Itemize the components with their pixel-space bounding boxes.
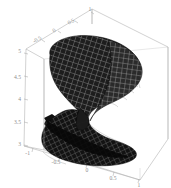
z-axis-tick-labels: 5 4.5 4 3.5 3 xyxy=(14,48,21,147)
x-tick-label: -1 xyxy=(25,150,30,156)
z-tick-label: 5 xyxy=(18,48,21,54)
x-tick-label: -0.5 xyxy=(52,159,61,165)
z-tick-label: 3 xyxy=(18,141,21,147)
y-tick-label: 0 xyxy=(51,27,57,34)
plot-canvas: 5 4.5 4 3.5 3 -1 -0.5 0 0.5 1 -0.5 0 0.5… xyxy=(0,0,171,188)
y-tick-label: 0.5 xyxy=(66,17,75,26)
x-tick-label: 1 xyxy=(138,182,141,188)
x-tick-label: 0.5 xyxy=(110,175,117,181)
x-tick-label: 0 xyxy=(86,167,89,173)
plot-figure: 5 4.5 4 3.5 3 -1 -0.5 0 0.5 1 -0.5 0 0.5… xyxy=(0,0,171,188)
z-tick-label: 4 xyxy=(18,96,21,102)
y-tick-label: 1 xyxy=(89,6,92,12)
surface-3d xyxy=(42,35,142,166)
z-tick-label: 4.5 xyxy=(14,74,21,80)
z-tick-label: 3.5 xyxy=(14,119,21,125)
y-tick-label: -0.5 xyxy=(32,34,43,44)
